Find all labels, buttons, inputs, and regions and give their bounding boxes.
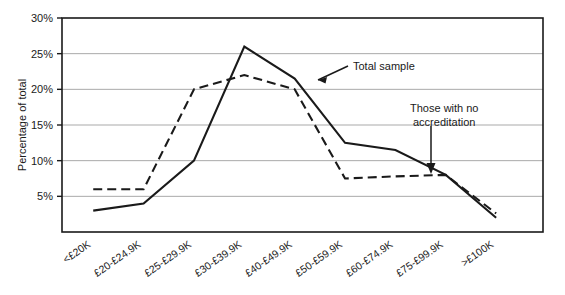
income-distribution-line-chart: 5%10%15%20%25%30% Percentage of total <£… bbox=[0, 0, 565, 295]
y-axis-tick-label: 10% bbox=[31, 155, 53, 167]
x-axis-category-label: £40-£49.9K bbox=[242, 238, 293, 279]
x-axis-category-label: £60-£74.9K bbox=[343, 238, 394, 279]
y-axis-tick-labels: 5%10%15%20%25%30% bbox=[31, 12, 53, 202]
y-axis-tick-label: 15% bbox=[31, 119, 53, 131]
x-axis-category-labels: <£20K£20-£24.9K£25-£29.9K£30-£39.9K£40-£… bbox=[60, 238, 495, 279]
x-axis-category-label: £50-£59.9K bbox=[293, 238, 344, 279]
y-axis-tick-label: 5% bbox=[37, 190, 53, 202]
x-axis-category-label: >£100K bbox=[459, 238, 496, 269]
y-axis-tick-label: 25% bbox=[31, 48, 53, 60]
annotation-no-accreditation-label-line1: Those with no bbox=[410, 102, 478, 114]
y-axis-tick-label: 30% bbox=[31, 12, 53, 24]
x-axis-category-label: <£20K bbox=[60, 238, 92, 265]
annotation-no-accreditation-label-line2: accreditation bbox=[413, 116, 475, 128]
x-axis-category-label: £30-£39.9K bbox=[192, 238, 243, 279]
chart-container: 5%10%15%20%25%30% Percentage of total <£… bbox=[0, 0, 565, 295]
y-axis-title: Percentage of total bbox=[16, 79, 28, 171]
annotation-total-sample-label: Total sample bbox=[353, 60, 415, 72]
x-axis-category-label: £25-£29.9K bbox=[142, 238, 193, 279]
x-axis-category-label: £20-£24.9K bbox=[91, 238, 142, 279]
x-axis-category-label: £75-£99.9K bbox=[394, 238, 445, 279]
y-axis-tick-label: 20% bbox=[31, 83, 53, 95]
